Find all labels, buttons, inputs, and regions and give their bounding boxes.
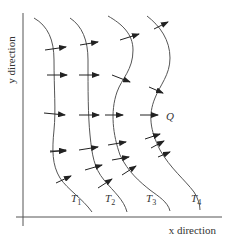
x-axis-label: x direction: [169, 224, 217, 236]
flux-arrow: [112, 75, 130, 82]
flux-label-q: Q: [166, 110, 174, 122]
flux-arrow: [154, 22, 168, 29]
flux-arrow: [149, 87, 163, 93]
flux-arrow: [79, 147, 98, 150]
flux-arrow: [151, 141, 164, 148]
isotherm-label-t3: T3: [146, 192, 156, 207]
flux-arrow: [120, 34, 139, 40]
flux-arrow: [145, 134, 160, 139]
isotherm-curve-t3: [108, 16, 170, 211]
isotherm-diagram: y direction x direction Q T1 T2 T3 T4: [0, 0, 231, 239]
flux-arrow: [80, 42, 98, 45]
y-axis-label: y direction: [5, 36, 17, 84]
flux-arrow: [112, 157, 129, 160]
isotherm-label-t2: T2: [105, 192, 115, 207]
flux-arrow: [45, 47, 66, 50]
flux-arrow: [122, 166, 136, 175]
flux-arrow: [85, 165, 102, 170]
isotherm-label-t1: T1: [71, 192, 81, 207]
isotherm-label-t4: T4: [191, 192, 201, 207]
